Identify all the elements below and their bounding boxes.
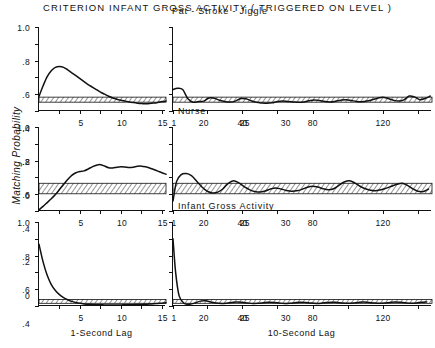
plot-area-left-row2: 1.0.8.6.4.2051015202530 [38,222,165,306]
confidence-band [39,299,166,303]
curve-svg-left-row1 [39,127,166,211]
x-axis-label-left: 1-Second Lag [70,328,132,338]
y-tick-label: .4 [22,319,30,329]
figure-root: CRITERION INFANT GROSS ACTIVITY ( TRIGGE… [0,0,435,348]
panel-title-row0: Pat - Stroke - Jiggle [172,6,268,16]
y-tick-label: .8 [22,252,30,262]
x-tick-label: 30 [281,313,291,323]
x-tick-label: 15 [158,313,168,323]
curve-svg-right-row0 [173,27,432,111]
curve-svg-right-row1 [173,127,432,211]
y-tick: 0 [35,111,39,112]
y-tick-label: .6 [22,90,30,100]
x-tick-label: 80 [308,313,318,323]
y-axis-label: Matching Probability [11,96,22,216]
plot-area-left-row1: 1.0.8.6.4.2051015202530 [38,127,165,211]
y-tick-label: .6 [22,285,30,295]
x-tick-label: 1 [171,313,176,323]
y-tick-label: .6 [22,190,30,200]
x-tick-label: 20 [199,313,209,323]
y-tick: 0 [35,211,39,212]
data-trace [173,239,427,305]
y-tick-label: 1.0 [17,218,30,228]
y-tick: 0 [35,306,39,307]
plot-area-left-row0: 1.0.8.6.4.2051015202530 [38,27,165,111]
x-tick-label: 40 [237,313,247,323]
plot-area-right-row2: 14080120160200240280 [172,222,431,306]
y-tick-label: 1.0 [17,123,30,133]
panel-title-row1: Nurse [178,106,206,116]
curve-svg-right-row2 [173,222,432,306]
curve-svg-left-row2 [39,222,166,306]
plot-area-right-row0: 14080120160200240280 [172,27,431,111]
y-tick-label: .8 [22,157,30,167]
plot-area-right-row1: 14080120160200240280 [172,127,431,211]
data-trace [39,244,166,305]
x-tick-label: 120 [375,313,390,323]
x-tick-label: 10 [117,313,127,323]
x-axis-label-right: 10-Second Lag [268,328,336,338]
confidence-band [39,97,166,102]
y-tick-label: 1.0 [17,23,30,33]
curve-svg-left-row0 [39,27,166,111]
y-tick-label: .8 [22,57,30,67]
x-tick-label: 5 [78,313,83,323]
panel-title-row2: Infant Gross Activity [178,201,274,211]
